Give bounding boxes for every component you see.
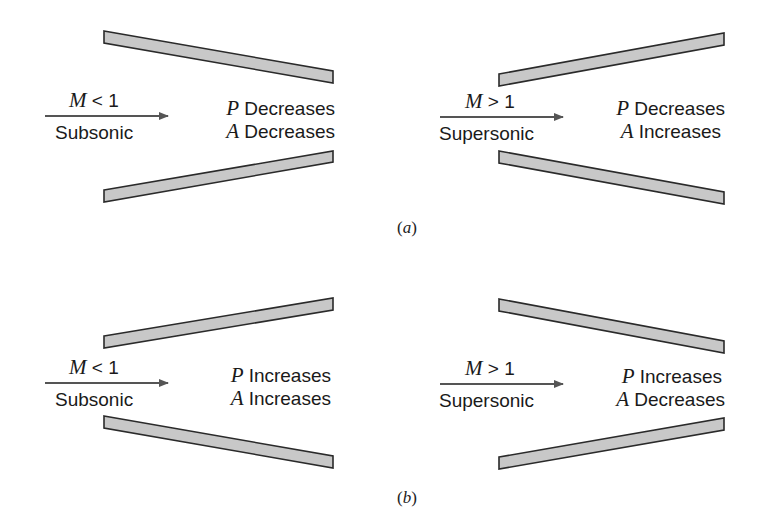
caption-letter: b — [403, 488, 412, 507]
area-effect: Decreases — [244, 121, 335, 142]
area-symbol: A — [621, 119, 634, 143]
nozzle-diffuser-figure: M < 1 Subsonic PDecreases ADecreases M >… — [0, 0, 771, 525]
caption-paren: ) — [411, 488, 417, 507]
mach-relation: > 1 — [483, 358, 515, 379]
pressure-symbol: P — [226, 96, 239, 120]
flow-regime-label: Supersonic — [439, 391, 534, 410]
mach-symbol: M — [465, 356, 483, 380]
mach-symbol: M — [69, 355, 87, 379]
wall-a-right-bottom — [499, 151, 724, 204]
panel-caption-b: (b) — [397, 489, 417, 506]
pressure-effect: Decreases — [634, 98, 725, 119]
area-symbol: A — [226, 119, 239, 143]
area-symbol: A — [231, 386, 244, 410]
area-effect-label: AIncreases — [581, 121, 721, 142]
mach-condition-label: M < 1 — [69, 90, 119, 111]
mach-relation: < 1 — [87, 357, 119, 378]
caption-letter: a — [403, 218, 412, 237]
mach-condition-label: M > 1 — [465, 91, 515, 112]
mach-condition-label: M < 1 — [69, 357, 119, 378]
wall-a-left-bottom — [104, 151, 333, 202]
pressure-effect: Decreases — [244, 98, 335, 119]
wall-a-right-top — [499, 33, 724, 86]
pressure-effect: Increases — [640, 366, 722, 387]
pressure-symbol: P — [622, 364, 635, 388]
mach-symbol: M — [69, 88, 87, 112]
pressure-effect-label: PIncreases — [582, 366, 722, 387]
pressure-symbol: P — [616, 96, 629, 120]
area-effect-label: AIncreases — [191, 388, 331, 409]
wall-a-left-top — [104, 31, 333, 83]
pressure-symbol: P — [231, 363, 244, 387]
area-symbol: A — [616, 387, 629, 411]
caption-paren: ) — [411, 218, 417, 237]
area-effect-label: ADecreases — [585, 389, 725, 410]
pressure-effect: Increases — [249, 365, 331, 386]
wall-b-left-top — [104, 298, 333, 348]
area-effect-label: ADecreases — [195, 121, 335, 142]
flow-regime-label: Subsonic — [55, 390, 133, 409]
wall-b-right-bottom — [499, 418, 724, 469]
panel-caption-a: (a) — [397, 219, 417, 236]
pressure-effect-label: PDecreases — [585, 98, 725, 119]
flow-regime-label: Subsonic — [55, 123, 133, 142]
wall-b-left-bottom — [104, 416, 333, 468]
wall-b-right-top — [499, 299, 724, 353]
mach-relation: < 1 — [87, 90, 119, 111]
mach-condition-label: M > 1 — [465, 358, 515, 379]
area-effect: Increases — [639, 121, 721, 142]
duct-walls-drawing — [0, 0, 771, 525]
mach-relation: > 1 — [483, 91, 515, 112]
pressure-effect-label: PDecreases — [195, 98, 335, 119]
area-effect: Decreases — [634, 389, 725, 410]
mach-symbol: M — [465, 89, 483, 113]
flow-regime-label: Supersonic — [439, 124, 534, 143]
area-effect: Increases — [249, 388, 331, 409]
pressure-effect-label: PIncreases — [191, 365, 331, 386]
